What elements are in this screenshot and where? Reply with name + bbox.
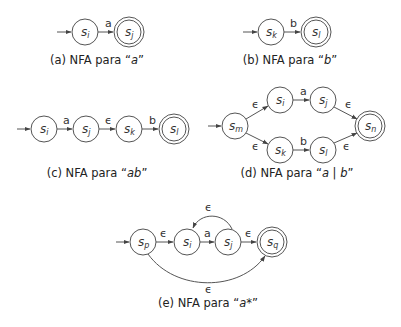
state-s-m: sm	[222, 113, 248, 139]
bypass-arrow	[148, 254, 265, 283]
transition-label: ϵ	[345, 98, 352, 111]
state-s-k: sk	[258, 19, 284, 45]
state-s-i: si	[31, 116, 57, 142]
transition-label: ϵ	[205, 201, 212, 214]
panel-b: sk b sl (b) NFA para “b”	[243, 17, 338, 67]
caption-b: (b) NFA para “b”	[243, 53, 338, 67]
loop-back-arrow	[193, 216, 232, 229]
state-s-i: si	[267, 87, 293, 113]
final-state-s-j: sj	[114, 17, 144, 47]
transition-label: ϵ	[205, 283, 212, 296]
transition-label: b	[149, 114, 156, 127]
panel-d: sm ϵ ϵ si a sj sk b sl ϵ ϵ	[208, 85, 385, 180]
final-state-s-l: sl	[301, 17, 331, 47]
transition-label: a	[63, 114, 70, 127]
nfa-diagram: si a sj (a) NFA para “a” sk b sl (b) NFA…	[0, 0, 401, 327]
transition-label: a	[300, 85, 307, 98]
state-s-j: sj	[310, 87, 336, 113]
transition-label: ϵ	[252, 140, 259, 153]
final-state-s-n: sn	[355, 111, 385, 141]
transition-label: ϵ	[160, 227, 167, 240]
transition-label: a	[105, 17, 112, 30]
state-s-j: sj	[215, 229, 241, 255]
state-s-j: sj	[73, 116, 99, 142]
state-s-p: sp	[130, 229, 156, 255]
state-s-i: si	[174, 229, 200, 255]
caption-c: (c) NFA para “ab”	[47, 166, 148, 180]
transition-label: ϵ	[343, 140, 350, 153]
caption-d: (d) NFA para “a | b”	[241, 166, 354, 180]
transition-label: b	[300, 135, 307, 148]
transition-label: b	[290, 17, 297, 30]
transition-label: a	[204, 227, 211, 240]
state-s-i: si	[72, 19, 98, 45]
state-s-k: sk	[116, 116, 142, 142]
transition-label: ϵ	[245, 227, 252, 240]
final-state-s-l: sl	[159, 114, 189, 144]
final-state-s-q: sq	[257, 227, 287, 257]
transition-label: ϵ	[252, 98, 259, 111]
panel-c: si a sj ϵ sk b sl (c) NFA para “ab”	[17, 114, 189, 180]
panel-e: sp ϵ si a sj ϵ sq ϵ ϵ (e) NFA para “a*”	[116, 201, 287, 310]
state-s-k: sk	[267, 137, 293, 163]
state-s-l: sl	[310, 137, 336, 163]
transition-label: ϵ	[105, 114, 112, 127]
caption-a: (a) NFA para “a”	[50, 53, 144, 67]
caption-e: (e) NFA para “a*”	[158, 296, 258, 310]
panel-a: si a sj (a) NFA para “a”	[50, 17, 144, 67]
